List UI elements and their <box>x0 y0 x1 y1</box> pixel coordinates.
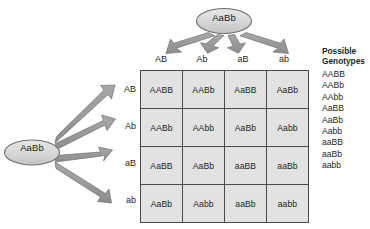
punnett-cell: AABb <box>183 71 225 109</box>
genotype-key-item: Aabb <box>322 126 370 137</box>
punnett-cell: aaBb <box>267 147 309 185</box>
punnett-cell: AABB <box>141 71 183 109</box>
left-parent-genotype-label: AaBb <box>8 142 56 153</box>
column-header-2: Ab <box>181 54 223 64</box>
top-arrow-to-ab <box>240 33 289 54</box>
punnett-row: AABB AABb AaBB AaBb <box>141 71 309 109</box>
punnett-cell: AaBb <box>225 109 267 147</box>
row-header-1: AB <box>116 84 136 94</box>
row-header-3: aB <box>116 158 136 168</box>
genotype-key-item: AABb <box>322 80 370 91</box>
genotype-key-item: AaBB <box>322 103 370 114</box>
genotype-key-item: aabb <box>322 160 370 171</box>
genotype-key-item: AABB <box>322 69 370 80</box>
punnett-cell: Aabb <box>267 109 309 147</box>
punnett-row: AABb AAbb AaBb Aabb <box>141 109 309 147</box>
punnett-cell: AAbb <box>183 109 225 147</box>
genotype-key-item: aaBb <box>322 149 370 160</box>
column-header-4: ab <box>263 54 305 64</box>
row-header-4: ab <box>116 195 136 205</box>
left-arrow-to-aB <box>56 147 113 162</box>
genotype-key-item: AaBb <box>322 115 370 126</box>
punnett-cell: Aabb <box>183 185 225 223</box>
column-header-3: aB <box>222 54 264 64</box>
genotype-key-item: AAbb <box>322 92 370 103</box>
punnett-cell: AaBb <box>141 185 183 223</box>
punnett-cell: AABb <box>141 109 183 147</box>
punnett-cell: AaBB <box>141 147 183 185</box>
genotype-key-title: Possible Genotypes <box>322 47 370 66</box>
top-arrow-to-aB <box>228 35 246 54</box>
left-parent-arrow-group <box>55 85 116 203</box>
top-parent-arrow-group <box>166 33 289 54</box>
punnett-row: AaBB AaBb aaBB aaBb <box>141 147 309 185</box>
row-header-2: Ab <box>116 121 136 131</box>
punnett-cell: AaBb <box>267 71 309 109</box>
punnett-cell: AaBB <box>225 71 267 109</box>
punnett-square-grid: AABB AABb AaBB AaBb AABb AAbb AaBb Aabb … <box>140 70 309 223</box>
punnett-cell: aaBb <box>225 185 267 223</box>
left-arrow-to-ab <box>55 162 112 203</box>
punnett-cell: aabb <box>267 185 309 223</box>
column-header-1: AB <box>140 54 182 64</box>
genotype-key-item: aaBB <box>322 137 370 148</box>
punnett-row: AaBb Aabb aaBb aabb <box>141 185 309 223</box>
top-parent-genotype-label: AaBb <box>200 12 248 23</box>
genotype-key-panel: Possible Genotypes AABB AABb AAbb AaBB A… <box>322 47 370 172</box>
punnett-cell: aaBB <box>225 147 267 185</box>
punnett-cell: AaBb <box>183 147 225 185</box>
